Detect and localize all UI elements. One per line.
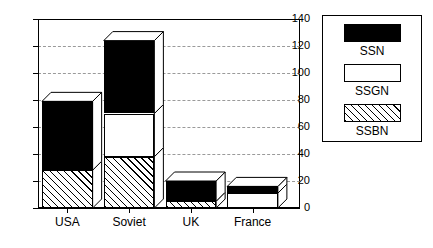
bar-segment-france-ssgn (227, 193, 278, 208)
plot-area: 020406080100120140 USASovietUKFrance (0, 0, 310, 248)
chart-figure: 020406080100120140 USASovietUKFrance SSN… (0, 0, 433, 248)
legend-item-ssgn: SSGN (323, 64, 421, 98)
bar-segment-france-ssn (227, 186, 278, 193)
legend-label-ssgn: SSGN (323, 84, 421, 98)
legend-label-ssn: SSN (323, 44, 421, 58)
legend-item-ssn: SSN (323, 24, 421, 58)
legend-label-ssbn: SSBN (323, 124, 421, 138)
x-tick (191, 208, 192, 213)
x-label-france: France (213, 216, 293, 229)
legend-box: SSN SSGN SSBN (322, 15, 422, 142)
x-tick (253, 208, 254, 213)
legend-swatch-ssbn (344, 104, 401, 122)
x-tick (67, 208, 68, 213)
x-tick (129, 208, 130, 213)
legend-swatch-ssn (344, 24, 401, 42)
bar-top-face (227, 177, 287, 186)
legend-item-ssbn: SSBN (323, 104, 421, 138)
legend-swatch-ssgn (344, 64, 401, 82)
